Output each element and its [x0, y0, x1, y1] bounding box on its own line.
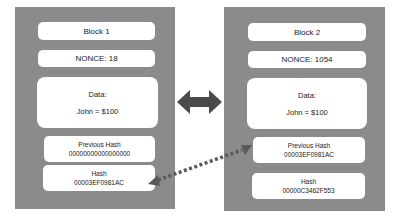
- double-arrow-icon: [177, 90, 222, 114]
- connectors-layer: [0, 0, 399, 219]
- dotted-link-arrowhead-left-icon: [148, 175, 160, 186]
- dotted-link-line: [158, 150, 242, 180]
- dotted-link-arrowhead-right-icon: [241, 145, 252, 155]
